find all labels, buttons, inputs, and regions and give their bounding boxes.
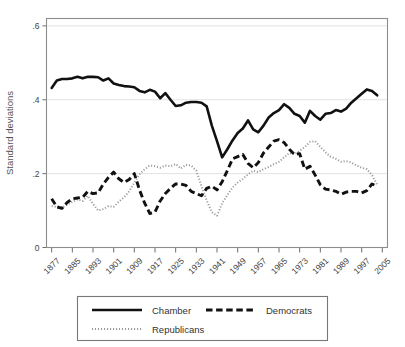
legend-label-chamber: Chamber [152,305,191,316]
chart-figure: 0.2.4.6 18771885189319011909191719251933… [0,0,405,347]
y-tick-label: .4 [32,95,39,105]
line-chart: 0.2.4.6 18771885189319011909191719251933… [0,0,405,347]
y-tick-label: 0 [35,243,40,253]
legend-label-democrats: Democrats [266,305,312,316]
y-tick-label: .2 [32,169,39,179]
legend-label-republicans: Republicans [152,324,205,335]
y-tick-label: .6 [32,21,39,31]
y-axis-title: Standard deviations [4,91,15,175]
